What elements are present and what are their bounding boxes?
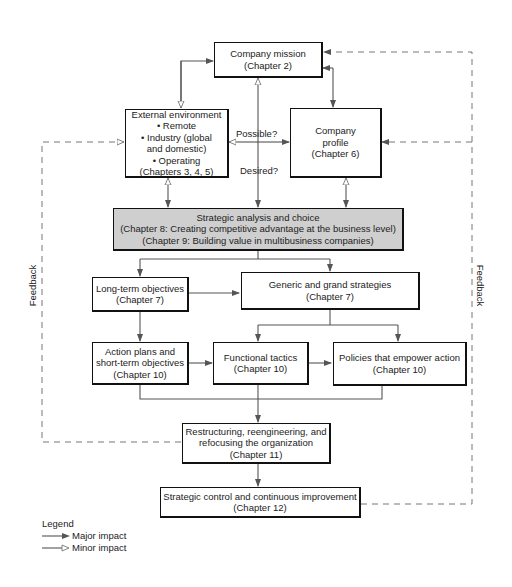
- node-chapter: (Chapter 11): [230, 449, 283, 461]
- node-title-line1: Company: [315, 125, 356, 137]
- node-chapter-8: (Chapter 8: Creating competitive advanta…: [120, 223, 396, 235]
- node-chapter: (Chapter 6): [311, 148, 359, 160]
- node-title-line2: refocusing the organization: [199, 437, 313, 449]
- legend-minor-label: Minor impact: [72, 542, 126, 554]
- legend-title: Legend: [42, 518, 126, 530]
- node-policies: Policies that empower action (Chapter 10…: [333, 342, 467, 386]
- node-item-operating: • Operating: [153, 155, 201, 167]
- node-company-mission: Company mission (Chapter 2): [214, 42, 323, 78]
- node-chapter: (Chapter 10): [113, 369, 166, 381]
- node-item-industry-cont: and domestic): [147, 143, 207, 155]
- node-title: Generic and grand strategies: [269, 279, 392, 291]
- legend-major-label: Major impact: [72, 530, 126, 542]
- node-item-industry: • Industry (global: [141, 132, 212, 144]
- node-title: External environment: [132, 109, 222, 121]
- node-chapter: (Chapters 3, 4, 5): [140, 166, 214, 178]
- legend: Legend Major impact Minor impact: [42, 518, 126, 554]
- major-arrow-icon: [42, 532, 70, 540]
- node-strategic-control: Strategic control and continuous improve…: [160, 487, 361, 518]
- node-title: Company mission: [230, 48, 306, 60]
- legend-major: Major impact: [42, 530, 126, 542]
- node-chapter: (Chapter 10): [234, 363, 287, 375]
- edge-label-desired: Desired?: [240, 165, 278, 176]
- node-chapter: (Chapter 2): [244, 60, 292, 72]
- node-title: Strategic analysis and choice: [196, 212, 319, 224]
- node-title: Functional tactics: [224, 352, 297, 364]
- node-generic-grand-strategies: Generic and grand strategies (Chapter 7): [241, 272, 420, 310]
- node-strategic-analysis: Strategic analysis and choice (Chapter 8…: [113, 208, 404, 251]
- node-action-plans: Action plans and short-term objectives (…: [92, 342, 189, 385]
- node-title-line1: Action plans and: [105, 346, 175, 358]
- minor-arrow-icon: [42, 544, 70, 552]
- legend-minor: Minor impact: [42, 542, 126, 554]
- node-chapter-9: (Chapter 9: Building value in multibusin…: [142, 235, 373, 247]
- feedback-label-right: Feedback: [475, 265, 486, 307]
- node-external-environment: External environment • Remote • Industry…: [125, 109, 229, 178]
- node-title: Strategic control and continuous improve…: [163, 491, 356, 503]
- node-restructuring: Restructuring, reengineering, and refocu…: [182, 423, 331, 464]
- node-chapter: (Chapter 10): [373, 364, 426, 376]
- node-company-profile: Company profile (Chapter 6): [290, 108, 382, 178]
- node-chapter: (Chapter 7): [116, 294, 164, 306]
- node-title-line1: Restructuring, reengineering, and: [185, 426, 326, 438]
- node-title: Long-term objectives: [96, 283, 184, 295]
- node-chapter: (Chapter 12): [233, 502, 286, 514]
- node-title: Policies that empower action: [339, 352, 460, 364]
- node-long-term-objectives: Long-term objectives (Chapter 7): [92, 277, 189, 312]
- node-functional-tactics: Functional tactics (Chapter 10): [213, 342, 309, 385]
- node-title-line2: short-term objectives: [96, 357, 184, 369]
- node-title-line2: profile: [323, 137, 349, 149]
- node-chapter: (Chapter 7): [306, 291, 354, 303]
- edge-label-possible: Possible?: [236, 128, 277, 139]
- feedback-label-left: Feedback: [27, 265, 38, 307]
- node-item-remote: • Remote: [157, 120, 196, 132]
